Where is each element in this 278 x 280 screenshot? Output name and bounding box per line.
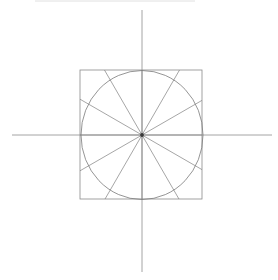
- radial-spoke-30deg: [142, 100, 202, 135]
- radial-spoke-210deg: [80, 135, 142, 171]
- radial-spoke-150deg: [80, 99, 142, 135]
- figure-canvas: [0, 0, 278, 280]
- radial-spoke-60deg: [142, 70, 180, 135]
- radial-spoke-240deg: [105, 135, 142, 199]
- center-layer: [140, 133, 144, 137]
- radial-spoke-120deg: [104, 70, 142, 135]
- radial-spoke-330deg: [142, 135, 202, 170]
- geometric-figure-svg: [0, 0, 278, 280]
- center-point-dot: [140, 133, 144, 137]
- radial-spoke-300deg: [142, 135, 179, 199]
